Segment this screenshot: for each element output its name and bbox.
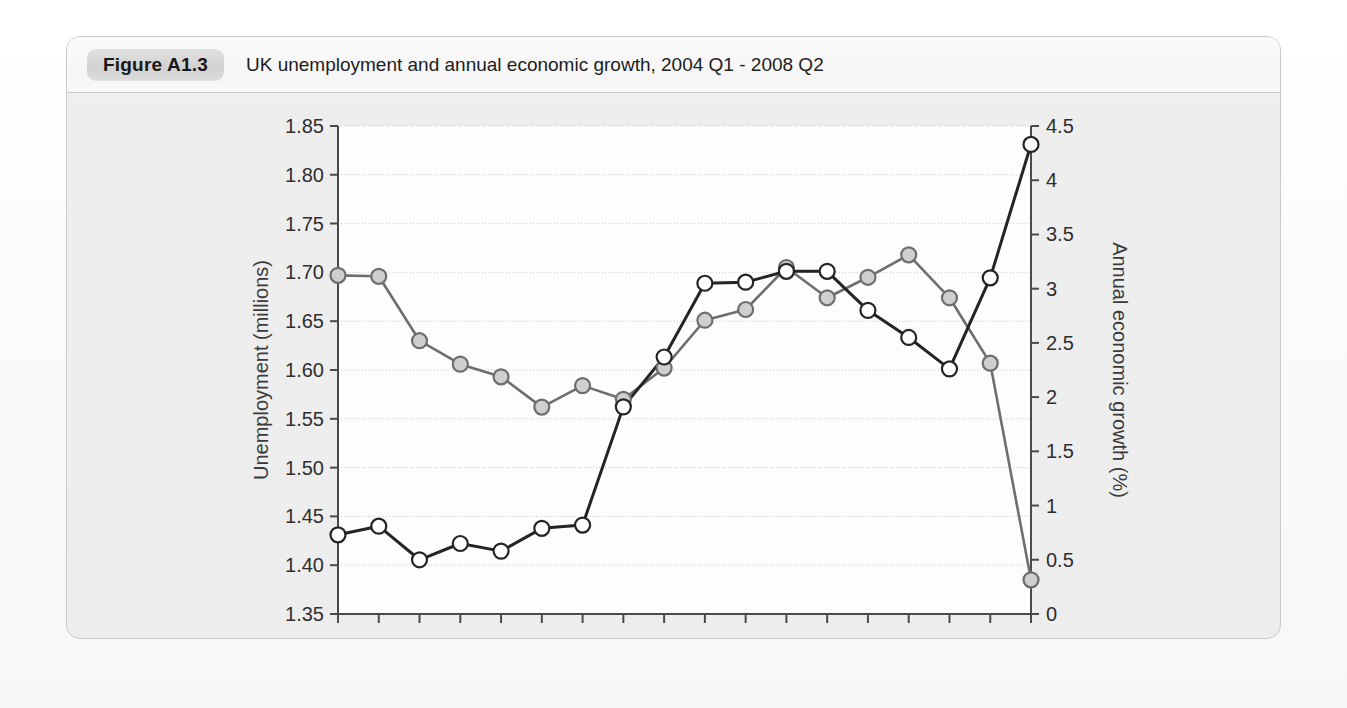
chart-region: 1.351.401.451.501.551.601.651.701.751.80… [67,93,1280,639]
left-axis-tick-label: 1.75 [285,213,324,235]
data-point-series-2 [697,276,712,291]
left-axis-tick-label: 1.40 [285,554,324,576]
right-axis-tick-label: 0 [1046,603,1057,625]
data-point-series-2 [575,518,590,533]
data-point-series-1 [534,400,549,415]
figure-card: Figure A1.3 UK unemployment and annual e… [66,36,1281,639]
left-axis-tick-label: 1.35 [285,603,324,625]
right-axis-tick-label: 2 [1046,386,1057,408]
data-point-series-2 [657,349,672,364]
line-chart: 1.351.401.451.501.551.601.651.701.751.80… [67,93,1281,639]
right-axis-tick-label: 2.5 [1046,332,1074,354]
data-point-series-1 [575,378,590,393]
x-axis-tick-label: 2006 [642,634,687,639]
data-point-series-1 [983,356,998,371]
x-axis-tick-label: 2004 [316,634,361,639]
x-axis-tick-label: 2007 [805,634,850,639]
data-point-series-2 [453,536,468,551]
data-point-series-2 [331,527,346,542]
left-axis-title: Unemployment (millions) [250,260,272,480]
data-point-series-1 [697,313,712,328]
data-point-series-2 [494,544,509,559]
data-point-series-2 [1024,137,1039,152]
data-point-series-2 [534,521,549,536]
data-point-series-2 [942,361,957,376]
figure-number-tag: Figure A1.3 [87,49,224,81]
right-axis-tick-label: 1 [1046,495,1057,517]
left-axis-tick-label: 1.85 [285,115,324,137]
left-axis-tick-label: 1.55 [285,408,324,430]
data-point-series-2 [412,552,427,567]
title-fade-overlay [67,79,1280,92]
figure-title: UK unemployment and annual economic grow… [246,55,824,74]
left-axis-tick-label: 1.50 [285,457,324,479]
left-axis-tick-label: 1.80 [285,164,324,186]
right-axis-tick-label: 3 [1046,278,1057,300]
left-axis-tick-label: 1.65 [285,310,324,332]
right-axis-tick-label: 4.5 [1046,115,1074,137]
data-point-series-2 [616,399,631,414]
figure-title-band: Figure A1.3 UK unemployment and annual e… [67,37,1280,93]
series-line-1 [338,255,1031,580]
data-point-series-1 [901,247,916,262]
data-point-series-1 [820,290,835,305]
data-point-series-1 [494,369,509,384]
right-axis-tick-label: 0.5 [1046,549,1074,571]
right-axis-tick-label: 3.5 [1046,223,1074,245]
data-point-series-1 [1024,572,1039,587]
right-axis-tick-label: 4 [1046,169,1057,191]
data-point-series-2 [901,330,916,345]
data-point-series-1 [412,333,427,348]
data-point-series-1 [371,269,386,284]
page-root: Figure A1.3 UK unemployment and annual e… [0,0,1347,708]
data-point-series-1 [331,268,346,283]
data-point-series-2 [738,275,753,290]
left-axis-tick-label: 1.45 [285,505,324,527]
x-axis-tick-label: 2005 [479,634,524,639]
data-point-series-1 [453,357,468,372]
x-axis-tick-label: 2008 [968,634,1013,639]
data-point-series-2 [860,303,875,318]
left-axis-tick-label: 1.70 [285,261,324,283]
data-point-series-1 [738,302,753,317]
left-axis-tick-label: 1.60 [285,359,324,381]
data-point-series-2 [371,519,386,534]
right-axis-tick-label: 1.5 [1046,440,1074,462]
data-point-series-1 [860,270,875,285]
data-point-series-1 [942,290,957,305]
right-axis-title: Annual economic growth (%) [1109,242,1131,498]
data-point-series-2 [983,270,998,285]
data-point-series-2 [820,264,835,279]
data-point-series-2 [779,264,794,279]
